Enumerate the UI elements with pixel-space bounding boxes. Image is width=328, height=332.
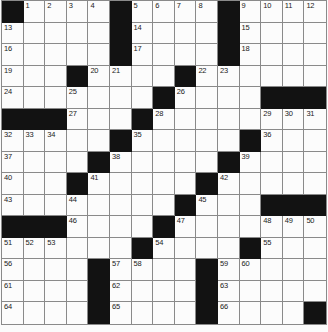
- grid-cell-r13-c7[interactable]: [153, 281, 175, 303]
- grid-cell-r8-c13[interactable]: [283, 173, 305, 195]
- grid-cell-r1-c1[interactable]: [24, 23, 46, 45]
- grid-cell-r0-c13[interactable]: 11: [283, 1, 305, 23]
- grid-cell-r6-c10[interactable]: [218, 130, 240, 152]
- grid-cell-r14-c0[interactable]: 64: [2, 302, 24, 324]
- grid-cell-r13-c12[interactable]: [261, 281, 283, 303]
- grid-cell-r10-c13[interactable]: 49: [283, 216, 305, 238]
- grid-cell-r1-c14[interactable]: [304, 23, 326, 45]
- grid-cell-r14-c6[interactable]: [132, 302, 154, 324]
- grid-cell-r7-c13[interactable]: [283, 152, 305, 174]
- grid-cell-r14-c12[interactable]: [261, 302, 283, 324]
- grid-cell-r1-c12[interactable]: [261, 23, 283, 45]
- grid-cell-r2-c12[interactable]: [261, 44, 283, 66]
- grid-cell-r14-c3[interactable]: [67, 302, 89, 324]
- grid-cell-r5-c11[interactable]: [240, 109, 262, 131]
- grid-cell-r3-c4[interactable]: 20: [88, 66, 110, 88]
- grid-cell-r12-c8[interactable]: [175, 259, 197, 281]
- grid-cell-r5-c12[interactable]: 29: [261, 109, 283, 131]
- grid-cell-r1-c2[interactable]: [45, 23, 67, 45]
- grid-cell-r7-c7[interactable]: [153, 152, 175, 174]
- grid-cell-r0-c1[interactable]: 1: [24, 1, 46, 23]
- grid-cell-r6-c13[interactable]: [283, 130, 305, 152]
- grid-cell-r4-c1[interactable]: [24, 87, 46, 109]
- grid-cell-r13-c6[interactable]: [132, 281, 154, 303]
- grid-cell-r12-c11[interactable]: 60: [240, 259, 262, 281]
- grid-cell-r4-c5[interactable]: [110, 87, 132, 109]
- grid-cell-r1-c11[interactable]: 15: [240, 23, 262, 45]
- grid-cell-r9-c10[interactable]: [218, 195, 240, 217]
- grid-cell-r2-c13[interactable]: [283, 44, 305, 66]
- grid-cell-r4-c8[interactable]: 26: [175, 87, 197, 109]
- grid-cell-r11-c4[interactable]: [88, 238, 110, 260]
- grid-cell-r7-c2[interactable]: [45, 152, 67, 174]
- grid-cell-r13-c2[interactable]: [45, 281, 67, 303]
- grid-cell-r1-c3[interactable]: [67, 23, 89, 45]
- grid-cell-r4-c10[interactable]: [218, 87, 240, 109]
- grid-cell-r12-c6[interactable]: 58: [132, 259, 154, 281]
- grid-cell-r2-c0[interactable]: 16: [2, 44, 24, 66]
- grid-cell-r9-c0[interactable]: 43: [2, 195, 24, 217]
- grid-cell-r11-c10[interactable]: [218, 238, 240, 260]
- grid-cell-r10-c5[interactable]: [110, 216, 132, 238]
- grid-cell-r6-c7[interactable]: [153, 130, 175, 152]
- grid-cell-r9-c1[interactable]: [24, 195, 46, 217]
- grid-cell-r7-c6[interactable]: [132, 152, 154, 174]
- grid-cell-r8-c8[interactable]: [175, 173, 197, 195]
- grid-cell-r4-c9[interactable]: [196, 87, 218, 109]
- grid-cell-r2-c7[interactable]: [153, 44, 175, 66]
- grid-cell-r13-c11[interactable]: [240, 281, 262, 303]
- grid-cell-r2-c1[interactable]: [24, 44, 46, 66]
- grid-cell-r6-c0[interactable]: 32: [2, 130, 24, 152]
- grid-cell-r7-c3[interactable]: [67, 152, 89, 174]
- grid-cell-r11-c7[interactable]: 54: [153, 238, 175, 260]
- grid-cell-r14-c8[interactable]: [175, 302, 197, 324]
- grid-cell-r5-c14[interactable]: 31: [304, 109, 326, 131]
- grid-cell-r6-c12[interactable]: 36: [261, 130, 283, 152]
- grid-cell-r6-c3[interactable]: [67, 130, 89, 152]
- grid-cell-r10-c8[interactable]: 47: [175, 216, 197, 238]
- grid-cell-r0-c14[interactable]: 12: [304, 1, 326, 23]
- grid-cell-r5-c5[interactable]: [110, 109, 132, 131]
- grid-cell-r5-c13[interactable]: 30: [283, 109, 305, 131]
- grid-cell-r14-c11[interactable]: [240, 302, 262, 324]
- grid-cell-r12-c5[interactable]: 57: [110, 259, 132, 281]
- grid-cell-r11-c12[interactable]: 55: [261, 238, 283, 260]
- grid-cell-r5-c8[interactable]: [175, 109, 197, 131]
- grid-cell-r12-c14[interactable]: [304, 259, 326, 281]
- grid-cell-r5-c9[interactable]: [196, 109, 218, 131]
- grid-cell-r0-c8[interactable]: 7: [175, 1, 197, 23]
- grid-cell-r12-c2[interactable]: [45, 259, 67, 281]
- grid-cell-r7-c12[interactable]: [261, 152, 283, 174]
- grid-cell-r12-c1[interactable]: [24, 259, 46, 281]
- grid-cell-r0-c2[interactable]: 2: [45, 1, 67, 23]
- grid-cell-r13-c5[interactable]: 62: [110, 281, 132, 303]
- grid-cell-r12-c12[interactable]: [261, 259, 283, 281]
- grid-cell-r8-c14[interactable]: [304, 173, 326, 195]
- grid-cell-r11-c3[interactable]: [67, 238, 89, 260]
- grid-cell-r11-c14[interactable]: [304, 238, 326, 260]
- grid-cell-r12-c0[interactable]: 56: [2, 259, 24, 281]
- grid-cell-r1-c7[interactable]: [153, 23, 175, 45]
- grid-cell-r13-c3[interactable]: [67, 281, 89, 303]
- grid-cell-r9-c7[interactable]: [153, 195, 175, 217]
- grid-cell-r12-c10[interactable]: 59: [218, 259, 240, 281]
- grid-cell-r3-c12[interactable]: [261, 66, 283, 88]
- grid-cell-r9-c2[interactable]: [45, 195, 67, 217]
- grid-cell-r0-c3[interactable]: 3: [67, 1, 89, 23]
- grid-cell-r11-c2[interactable]: 53: [45, 238, 67, 260]
- grid-cell-r13-c14[interactable]: [304, 281, 326, 303]
- grid-cell-r5-c10[interactable]: [218, 109, 240, 131]
- grid-cell-r1-c13[interactable]: [283, 23, 305, 45]
- grid-cell-r8-c4[interactable]: 41: [88, 173, 110, 195]
- grid-cell-r5-c4[interactable]: [88, 109, 110, 131]
- grid-cell-r8-c6[interactable]: [132, 173, 154, 195]
- grid-cell-r14-c1[interactable]: [24, 302, 46, 324]
- grid-cell-r8-c2[interactable]: [45, 173, 67, 195]
- grid-cell-r6-c1[interactable]: 33: [24, 130, 46, 152]
- grid-cell-r0-c12[interactable]: 10: [261, 1, 283, 23]
- grid-cell-r1-c8[interactable]: [175, 23, 197, 45]
- grid-cell-r9-c6[interactable]: [132, 195, 154, 217]
- grid-cell-r6-c9[interactable]: [196, 130, 218, 152]
- grid-cell-r6-c2[interactable]: 34: [45, 130, 67, 152]
- grid-cell-r13-c13[interactable]: [283, 281, 305, 303]
